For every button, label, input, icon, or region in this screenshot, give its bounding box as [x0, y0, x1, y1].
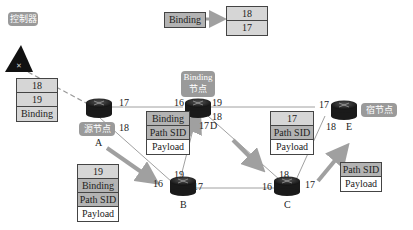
svg-text:✕: ✕	[16, 62, 22, 70]
binding-key-box: Binding	[164, 12, 206, 28]
stack-cell: 18	[17, 79, 57, 93]
port-d-19: 19	[212, 98, 222, 108]
source-node-tag: 源节点	[79, 122, 115, 136]
stack-cell: Path SID	[271, 126, 313, 140]
stack-cell: Payload	[341, 177, 381, 191]
stack-cell: Path SID	[341, 163, 381, 177]
port-d-17: 17	[199, 121, 209, 131]
port-b-19: 19	[174, 170, 184, 180]
stack-cell: Payload	[78, 207, 118, 221]
stack-cell: 19	[17, 93, 57, 107]
label-stack-at-a: 18 19 Binding	[16, 78, 58, 122]
stack-cell: 17	[271, 112, 313, 126]
stack-cell: Payload	[147, 140, 189, 154]
stack-cell: Payload	[271, 140, 313, 154]
node-c-label: C	[284, 200, 291, 210]
binding-value-stack: 18 17	[226, 6, 268, 36]
port-c-17: 17	[305, 180, 315, 190]
stack-cell: Binding	[17, 107, 57, 121]
binding-node-tag-line1: Binding	[181, 71, 215, 83]
port-b-17: 17	[193, 182, 203, 192]
stack-cell: Binding	[147, 112, 189, 126]
label-stack-d-to-c: 17 Path SID Payload	[270, 111, 314, 155]
router-e-icon[interactable]	[331, 100, 357, 120]
node-a-label: A	[95, 138, 102, 148]
port-c-18: 18	[279, 170, 289, 180]
stack-cell: Path SID	[147, 126, 189, 140]
port-e-17: 17	[319, 100, 329, 110]
port-a-17: 17	[119, 98, 129, 108]
binding-key: Binding	[165, 13, 205, 27]
controller-tag: 控制器	[8, 12, 38, 26]
dest-node-tag: 宿节点	[361, 103, 397, 117]
port-a-18: 18	[119, 123, 129, 133]
port-e-18: 18	[326, 122, 336, 132]
stack-cell: Binding	[78, 179, 118, 193]
binding-value-0: 18	[227, 7, 267, 21]
port-b-16: 16	[153, 179, 163, 189]
port-c-16: 16	[262, 182, 272, 192]
node-b-label: B	[180, 200, 187, 210]
binding-node-tag-line2: 节点	[181, 83, 215, 95]
port-d-16: 16	[174, 98, 184, 108]
label-stack-a-to-b: 19 Binding Path SID Payload	[77, 164, 119, 222]
label-stack-c-to-e: Path SID Payload	[340, 162, 382, 192]
label-stack-b-to-d: Binding Path SID Payload	[146, 111, 190, 155]
stack-cell: 19	[78, 165, 118, 179]
binding-value-1: 17	[227, 21, 267, 35]
router-a-icon[interactable]	[86, 98, 112, 118]
binding-node-tag: Binding 节点	[181, 71, 215, 97]
node-d-label: D	[210, 121, 217, 131]
port-d-18: 18	[212, 112, 222, 122]
node-e-label: E	[346, 122, 352, 132]
stack-cell: Path SID	[78, 193, 118, 207]
